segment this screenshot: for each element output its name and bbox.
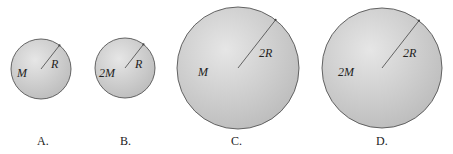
radius-arrow-icon: [274, 19, 276, 21]
mass-label: 2M: [99, 66, 116, 80]
radius-label: R: [50, 57, 59, 71]
sphere-option-b: 2MRB.: [95, 38, 155, 148]
sphere-option-d: 2M2RD.: [322, 8, 442, 148]
option-label: B.: [120, 134, 131, 148]
radius-arrow-icon: [142, 43, 144, 45]
mass-label: M: [16, 66, 28, 80]
mass-label: M: [197, 65, 209, 79]
radius-label: 2R: [259, 46, 273, 60]
sphere-option-a: MRA.: [11, 39, 71, 148]
radius-arrow-icon: [58, 44, 60, 46]
option-label: C.: [231, 134, 242, 148]
mass-label: 2M: [338, 65, 355, 79]
option-label: A.: [37, 134, 49, 148]
option-label: D.: [376, 134, 388, 148]
radius-arrow-icon: [418, 20, 420, 22]
radius-label: R: [134, 57, 143, 71]
radius-label: 2R: [403, 46, 417, 60]
sphere-option-c: M2RC.: [177, 7, 299, 148]
spheres-diagram: MRA.2MRB.M2RC.2M2RD.: [0, 0, 453, 154]
